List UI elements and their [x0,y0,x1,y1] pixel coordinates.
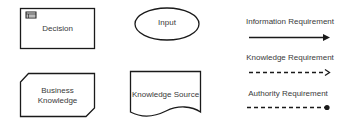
decision-label: Decision [20,24,95,34]
information-requirement-connector [249,34,330,41]
filled-arrow-icon [323,34,330,41]
knowledge-requirement-connector [249,70,330,76]
business-knowledge-label-line2: Knowledge [20,96,95,106]
input-label: Input [135,18,199,28]
knowledge-requirement-label: Knowledge Requirement [236,53,344,63]
filled-circle-icon [324,105,329,110]
information-requirement-label: Information Requirement [236,17,344,27]
business-knowledge-label: Business Knowledge [20,86,95,106]
business-knowledge-label-line1: Business [20,86,95,96]
authority-requirement-connector [247,105,330,110]
open-arrow-icon [325,70,330,76]
authority-requirement-label: Authority Requirement [236,89,340,99]
knowledge-source-label: Knowledge Source [128,90,203,100]
